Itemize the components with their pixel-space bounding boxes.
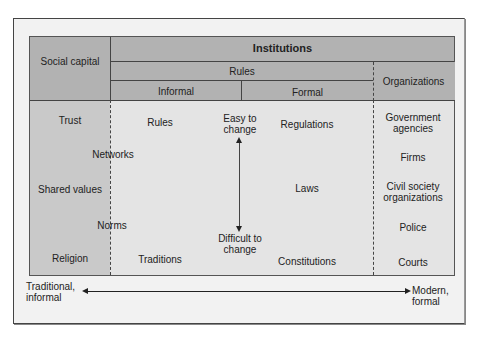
change-arrow [239, 141, 240, 227]
social-capital-header [30, 37, 111, 101]
modern-formal-label: Modern, formal [412, 285, 456, 307]
arrow-left-icon [82, 288, 88, 294]
modernity-axis [86, 291, 406, 292]
informal-item-rules: Rules [130, 117, 190, 128]
sc-item-networks: Networks [88, 149, 138, 160]
org-item-government-agencies: Government agencies [380, 112, 446, 134]
formal-item-laws: Laws [262, 183, 352, 194]
organizations-divider [373, 100, 374, 275]
social-capital-label: Social capital [30, 56, 110, 67]
institutions-label: Institutions [111, 43, 454, 54]
sc-item-trust: Trust [30, 115, 110, 126]
arrow-down-icon [236, 226, 242, 232]
sc-item-norms: Norms [92, 220, 132, 231]
formal-label: Formal [242, 87, 373, 98]
sc-item-religion: Religion [30, 253, 110, 264]
org-item-courts: Courts [380, 257, 446, 268]
social-capital-divider [110, 100, 111, 275]
difficult-to-change-label: Difficult to change [212, 233, 268, 255]
org-item-firms: Firms [380, 152, 446, 163]
arrow-right-icon [405, 288, 411, 294]
sc-item-shared-values: Shared values [30, 184, 110, 195]
formal-item-regulations: Regulations [262, 119, 352, 130]
informal-label: Informal [111, 86, 241, 97]
organizations-label: Organizations [373, 76, 454, 87]
traditional-informal-label: Traditional, informal [26, 281, 82, 303]
easy-to-change-label: Easy to change [215, 113, 265, 135]
arrow-up-icon [236, 137, 242, 143]
org-item-civil-society: Civil society organizations [376, 181, 450, 203]
rules-label: Rules [111, 66, 373, 77]
informal-item-traditions: Traditions [130, 254, 190, 265]
formal-item-constitutions: Constitutions [262, 256, 352, 267]
org-item-police: Police [380, 222, 446, 233]
institutions-table: Social capital Institutions Rules Inform… [29, 36, 455, 276]
